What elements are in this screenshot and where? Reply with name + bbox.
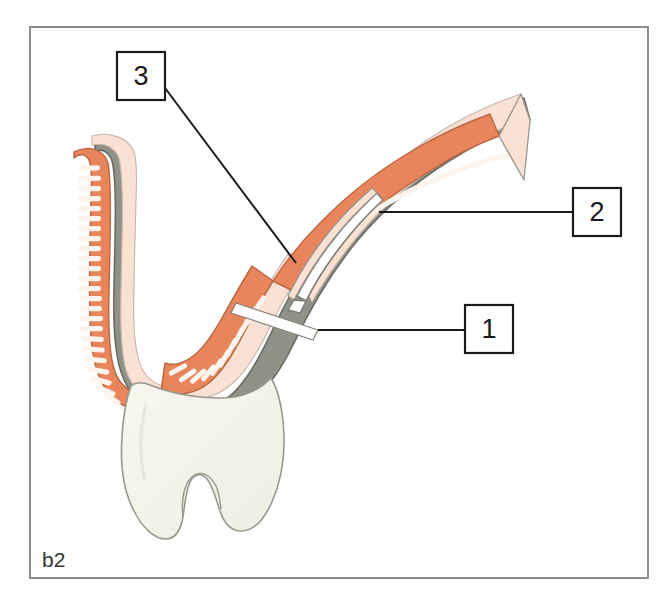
- figure-panel: 3 2 1 b2: [0, 0, 669, 599]
- callout-label-3: 3: [133, 61, 148, 91]
- callout-box-2[interactable]: 2: [573, 188, 621, 236]
- callout-box-1[interactable]: 1: [465, 305, 513, 353]
- anatomical-diagram-svg: 3 2 1 b2: [0, 0, 669, 599]
- callout-label-2: 2: [589, 197, 604, 227]
- callout-box-3[interactable]: 3: [117, 52, 165, 100]
- panel-caption: b2: [42, 548, 65, 571]
- leader-line-3: [165, 88, 296, 263]
- anatomy-illustration: [74, 94, 530, 539]
- callout-label-1: 1: [481, 314, 496, 344]
- blind-pouch-bulb: [122, 378, 284, 539]
